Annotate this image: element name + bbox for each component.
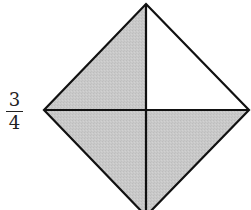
diamond-figure <box>0 0 251 210</box>
